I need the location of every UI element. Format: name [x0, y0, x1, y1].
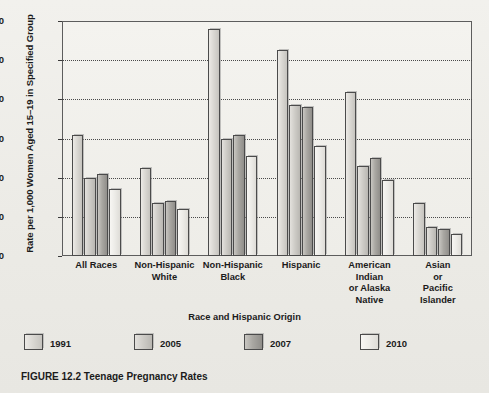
legend-swatch-2005: [134, 334, 153, 350]
bar: [233, 135, 245, 256]
x-axis-category-line: or Alaska: [335, 283, 403, 295]
y-axis-tick-label: 0: [0, 250, 4, 261]
bar-group: [335, 21, 403, 256]
x-axis-category-line: Non-Hispanic: [199, 260, 267, 272]
bar: [109, 189, 121, 256]
y-axis-tick-label: 120: [0, 15, 4, 26]
x-axis-category-line: Indian: [335, 272, 403, 284]
x-axis-category-line: Pacific: [404, 283, 472, 295]
legend-swatch-1991: [24, 334, 43, 350]
x-axis-category-line: Hispanic: [267, 260, 335, 272]
y-axis-tick-label: 40: [0, 172, 4, 183]
x-axis-category-line: Black: [199, 272, 267, 284]
figure-teenage-pregnancy-rates: Rate per 1,000 Women Aged 15–19 in Speci…: [0, 0, 489, 393]
x-axis-category-line: Non-Hispanic: [130, 260, 198, 272]
bar: [426, 227, 438, 256]
legend-swatch-2007: [244, 334, 263, 350]
x-axis-category-line: Asian: [404, 260, 472, 272]
x-axis-category-label: AmericanIndianor AlaskaNative: [335, 260, 403, 306]
bar: [177, 209, 189, 256]
x-axis-title: Race and Hispanic Origin: [0, 312, 489, 322]
y-axis-tick-label: 100: [0, 54, 4, 65]
bar-group: [267, 21, 335, 256]
bar: [165, 201, 177, 256]
legend-label: 1991: [50, 338, 71, 349]
x-axis-category-line: White: [130, 272, 198, 284]
bar: [72, 135, 84, 256]
y-axis-title: Rate per 1,000 Women Aged 15–19 in Speci…: [24, 9, 35, 259]
bar-group: [62, 21, 130, 256]
bar: [382, 180, 394, 256]
bar: [140, 168, 152, 256]
bar: [314, 146, 326, 256]
x-axis-category-line: Native: [335, 295, 403, 307]
bar: [152, 203, 164, 256]
legend-label: 2010: [386, 338, 407, 349]
x-axis-category-line: Islander: [404, 295, 472, 307]
y-axis-tick-mark: [58, 256, 62, 257]
figure-caption: FIGURE 12.2 Teenage Pregnancy Rates: [21, 371, 208, 382]
bar-group: [199, 21, 267, 256]
legend-label: 2007: [270, 338, 291, 349]
bar: [451, 234, 463, 256]
bar: [357, 166, 369, 256]
legend-label: 2005: [160, 338, 181, 349]
bar: [289, 105, 301, 256]
legend-swatch-2010: [360, 334, 379, 350]
bar: [84, 178, 96, 256]
bar: [97, 174, 109, 256]
x-axis-category-label: All Races: [62, 260, 130, 272]
x-axis-category-label: Non-HispanicWhite: [130, 260, 198, 283]
x-axis-category-line: or: [404, 272, 472, 284]
x-axis-category-line: All Races: [62, 260, 130, 272]
bar: [413, 203, 425, 256]
x-axis-category-label: Hispanic: [267, 260, 335, 272]
x-axis-category-line: American: [335, 260, 403, 272]
bar: [370, 158, 382, 256]
y-axis-tick-label: 60: [0, 133, 4, 144]
x-axis-category-label: Non-HispanicBlack: [199, 260, 267, 283]
bar: [438, 229, 450, 256]
bar: [345, 92, 357, 257]
bar: [208, 29, 220, 256]
y-axis-tick-label: 80: [0, 93, 4, 104]
bar-group: [404, 21, 472, 256]
y-axis-tick-label: 20: [0, 211, 4, 222]
bar-group: [130, 21, 198, 256]
bar: [302, 107, 314, 256]
plot-area-wrapper: 020406080100120: [62, 21, 472, 256]
bar: [246, 156, 258, 256]
bar: [277, 50, 289, 256]
legend: 1991200520072010: [24, 334, 464, 358]
x-axis-category-label: AsianorPacificIslander: [404, 260, 472, 306]
bar: [221, 139, 233, 257]
